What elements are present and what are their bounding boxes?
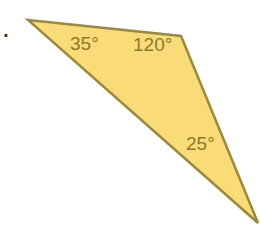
angle-label-120: 120° (133, 34, 172, 55)
angle-label-35: 35° (70, 33, 99, 54)
triangle-diagram: 35° 120° 25° (0, 0, 261, 228)
angle-label-25: 25° (186, 133, 215, 154)
